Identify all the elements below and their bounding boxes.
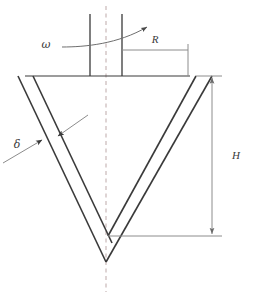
- radius-label: R: [151, 33, 159, 45]
- angular-velocity-label: ω: [42, 38, 51, 51]
- figure-container: ω R H δ: [0, 0, 254, 302]
- rotating-vessel-diagram: ω R H δ: [0, 0, 254, 302]
- height-dimension: [108, 76, 222, 236]
- wall-thickness-label: δ: [14, 138, 21, 151]
- vessel-walls: [18, 76, 212, 262]
- angular-velocity-arrow: [62, 27, 147, 47]
- radius-dimension: [122, 44, 188, 76]
- height-label: H: [231, 149, 241, 161]
